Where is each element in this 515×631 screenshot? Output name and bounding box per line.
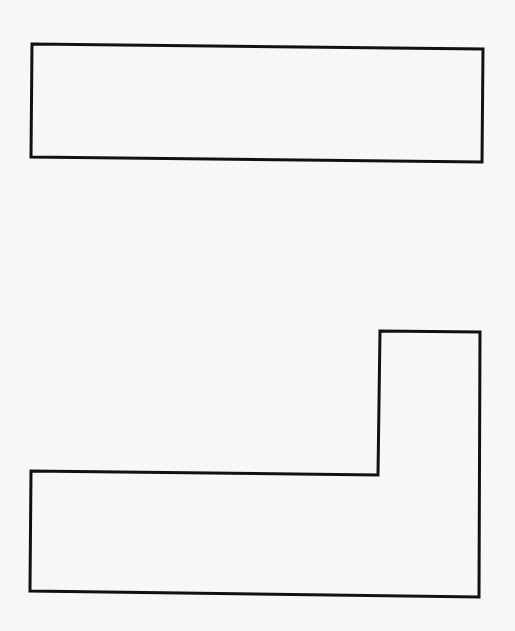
diagram-svg: [0, 0, 515, 631]
l-shape: [30, 331, 480, 597]
diagram-canvas: [0, 0, 515, 631]
rectangle-shape: [31, 44, 483, 162]
